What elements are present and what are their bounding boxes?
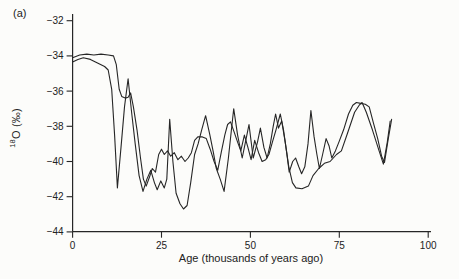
chart-canvas: −32−34−36−38−40−42−440255075100 bbox=[0, 0, 459, 279]
x-tick-label: 75 bbox=[334, 240, 346, 251]
y-tick-label: −44 bbox=[47, 226, 64, 237]
x-tick-label: 100 bbox=[420, 240, 437, 251]
x-tick-label: 0 bbox=[70, 240, 76, 251]
y-tick-label: −40 bbox=[47, 156, 64, 167]
y-tick-label: −42 bbox=[47, 191, 64, 202]
x-axis-title: Age (thousands of years ago) bbox=[100, 252, 402, 264]
y-tick-label: −34 bbox=[47, 50, 64, 61]
figure-panel: (a) 18O (‰) −32−34−36−38−40−42−440255075… bbox=[0, 0, 459, 279]
y-tick-label: −36 bbox=[47, 86, 64, 97]
x-tick-label: 50 bbox=[245, 240, 257, 251]
y-tick-label: −38 bbox=[47, 121, 64, 132]
y-tick-label: −32 bbox=[47, 15, 64, 26]
x-tick-label: 25 bbox=[156, 240, 168, 251]
